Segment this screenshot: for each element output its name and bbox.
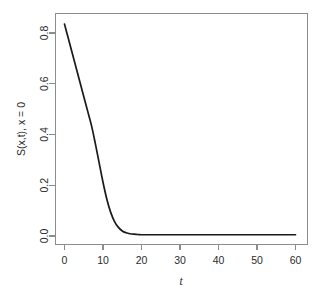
x-tick-label: 40	[213, 254, 225, 266]
y-tick-label: 0.6	[38, 76, 50, 91]
x-tick-label: 60	[290, 254, 302, 266]
x-axis-title: t	[179, 275, 183, 287]
x-tick-label: 50	[251, 254, 263, 266]
x-tick-label: 0	[62, 254, 68, 266]
x-tick-label: 20	[136, 254, 148, 266]
y-axis-title: S(x,t), x = 0	[15, 102, 27, 156]
chart-figure: 0 10 20 30 40 50 60 0.0 0.2 0.4 0.6 0.8 …	[0, 0, 322, 291]
y-tick-label: 0.0	[38, 229, 50, 244]
plot-box-border	[56, 14, 308, 245]
plot-canvas: 0 10 20 30 40 50 60 0.0 0.2 0.4 0.6 0.8 …	[0, 0, 322, 291]
y-tick-label: 0.4	[38, 127, 50, 142]
y-tick-label: 0.2	[38, 178, 50, 193]
y-tick-labels: 0.0 0.2 0.4 0.6 0.8	[38, 26, 50, 244]
x-tick-label: 30	[174, 254, 186, 266]
y-tick-label: 0.8	[38, 26, 50, 41]
y-axis-ticks	[49, 33, 55, 236]
decay-curve	[65, 24, 296, 235]
x-tick-labels: 0 10 20 30 40 50 60	[62, 254, 302, 266]
x-tick-label: 10	[97, 254, 109, 266]
